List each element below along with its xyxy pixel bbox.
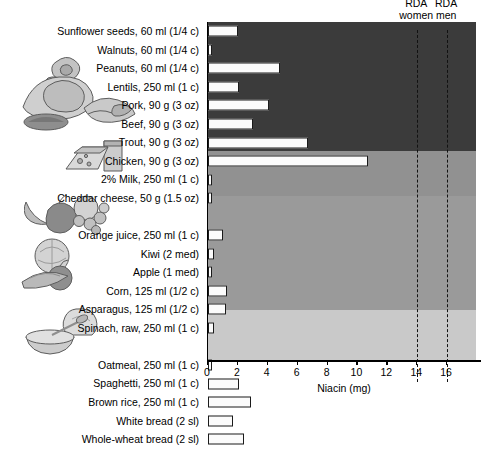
bar xyxy=(208,378,239,389)
category-label: Orange juice, 250 ml (1 c) xyxy=(0,226,203,245)
bar-row xyxy=(208,300,476,319)
bar-row xyxy=(208,226,476,245)
rda-men-caption: RDA men xyxy=(435,0,457,21)
x-axis: Niacin (mg) 0246810121416 xyxy=(207,360,481,362)
bar-row xyxy=(208,411,476,430)
x-tick-label: 12 xyxy=(380,366,392,378)
bar xyxy=(208,415,233,426)
rda-men-line2: men xyxy=(435,10,457,22)
category-label: Kiwi (2 med) xyxy=(0,245,203,264)
bar xyxy=(208,193,212,204)
x-tick-label: 4 xyxy=(264,366,270,378)
bar xyxy=(208,323,214,334)
x-tick-label: 10 xyxy=(351,366,363,378)
bar xyxy=(208,119,253,130)
rda-women-line xyxy=(417,30,418,382)
bar xyxy=(208,230,223,241)
bar xyxy=(208,137,308,148)
bar-row-spacer xyxy=(208,207,476,226)
category-label: Brown rice, 250 ml (1 c) xyxy=(0,393,203,412)
group-gap xyxy=(0,337,203,356)
bar-row xyxy=(208,170,476,189)
x-tick-label: 2 xyxy=(234,366,240,378)
bar-row xyxy=(208,263,476,282)
category-label: Cheddar cheese, 50 g (1.5 oz) xyxy=(0,189,203,208)
bar-row xyxy=(208,282,476,301)
bar-row xyxy=(208,96,476,115)
x-tick xyxy=(386,360,387,365)
category-label: Sunflower seeds, 60 ml (1/4 c) xyxy=(0,22,203,41)
bar xyxy=(208,248,214,259)
bar xyxy=(208,434,244,445)
bar-row xyxy=(208,245,476,264)
category-label: Trout, 90 g (3 oz) xyxy=(0,133,203,152)
bar-row xyxy=(208,319,476,338)
bar-row-spacer xyxy=(208,337,476,356)
bar-row xyxy=(208,133,476,152)
bar-row xyxy=(208,430,476,449)
bar xyxy=(208,285,227,296)
rda-women-line2: women xyxy=(399,10,433,22)
category-label: Oatmeal, 250 ml (1 c) xyxy=(0,356,203,375)
bar-row xyxy=(208,78,476,97)
rda-women-caption: RDA women xyxy=(399,0,433,21)
bar xyxy=(208,100,269,111)
bar-rows xyxy=(208,22,476,360)
bar-row xyxy=(208,356,476,375)
x-tick-label: 6 xyxy=(294,366,300,378)
x-tick xyxy=(446,360,447,365)
category-label: Walnuts, 60 ml (1/4 c) xyxy=(0,41,203,60)
category-label: White bread (2 sl) xyxy=(0,411,203,430)
bar xyxy=(208,26,238,37)
category-label: 2% Milk, 250 ml (1 c) xyxy=(0,170,203,189)
bar-row xyxy=(208,393,476,412)
bar xyxy=(208,44,212,55)
rda-men-line xyxy=(447,30,448,382)
bar xyxy=(208,397,251,408)
x-tick xyxy=(267,360,268,365)
x-tick-label: 8 xyxy=(324,366,330,378)
category-label: Spinach, raw, 250 ml (1 c) xyxy=(0,319,203,338)
bar-row xyxy=(208,41,476,60)
category-label: Spaghetti, 250 ml (1 c) xyxy=(0,374,203,393)
category-labels: Sunflower seeds, 60 ml (1/4 c) Walnuts, … xyxy=(0,22,203,360)
bar xyxy=(208,304,226,315)
bar xyxy=(208,63,280,74)
category-label: Whole-wheat bread (2 sl) xyxy=(0,430,203,449)
bar xyxy=(208,156,368,167)
x-tick-label: 0 xyxy=(204,366,210,378)
bar xyxy=(208,174,212,185)
category-label: Asparagus, 125 ml (1/2 c) xyxy=(0,300,203,319)
bar xyxy=(208,81,239,92)
category-label: Apple (1 med) xyxy=(0,263,203,282)
x-tick-label: 16 xyxy=(440,366,452,378)
bar-row xyxy=(208,189,476,208)
category-label: Beef, 90 g (3 oz) xyxy=(0,115,203,134)
x-tick xyxy=(327,360,328,365)
x-tick xyxy=(207,360,208,365)
x-tick-label: 14 xyxy=(410,366,422,378)
x-axis-title: Niacin (mg) xyxy=(317,382,371,394)
x-tick xyxy=(416,360,417,365)
bar xyxy=(208,267,212,278)
bar-row xyxy=(208,115,476,134)
group-gap xyxy=(0,207,203,226)
category-label: Chicken, 90 g (3 oz) xyxy=(0,152,203,171)
x-tick xyxy=(297,360,298,365)
bar-row xyxy=(208,59,476,78)
category-label: Peanuts, 60 ml (1/4 c) xyxy=(0,59,203,78)
bar-row xyxy=(208,22,476,41)
x-tick xyxy=(237,360,238,365)
x-tick xyxy=(356,360,357,365)
category-label: Corn, 125 ml (1/2 c) xyxy=(0,282,203,301)
bar-row xyxy=(208,152,476,171)
category-label: Pork, 90 g (3 oz) xyxy=(0,96,203,115)
category-label: Lentils, 250 ml (1 c) xyxy=(0,78,203,97)
plot-area xyxy=(207,22,476,360)
